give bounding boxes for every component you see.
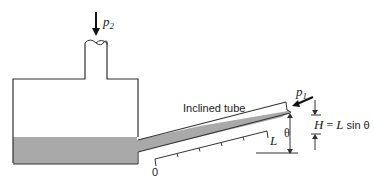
p2-label: p2 bbox=[102, 14, 115, 31]
tube-break-icon bbox=[85, 40, 107, 45]
height-formula: H = L sin θ bbox=[313, 117, 370, 132]
p1-label: p1 bbox=[295, 84, 307, 101]
reservoir-liquid bbox=[13, 137, 137, 164]
inclined-tube-label: Inclined tube bbox=[183, 102, 245, 114]
length-label: L bbox=[269, 133, 277, 148]
theta-label: θ bbox=[284, 126, 290, 140]
manometer-diagram: p2 p1 Inclined tube L θ 0 H = L sin θ bbox=[0, 0, 375, 185]
scale-zero-label: 0 bbox=[152, 166, 158, 178]
